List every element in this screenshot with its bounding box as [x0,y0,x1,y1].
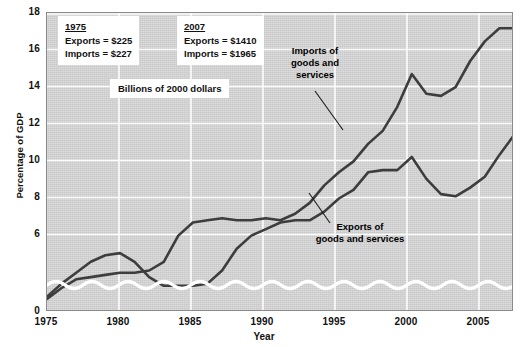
imports-label-line3: services [296,69,334,80]
x-tick-1975: 1975 [24,316,68,327]
callout-2007-heading: 2007 [184,20,257,33]
exports-series-label: Exports of goods and services [285,221,435,245]
exports-label-line2: goods and services [316,233,405,244]
units-note: Billions of 2000 dollars [110,79,229,98]
axis-break-wave [47,282,513,289]
x-tick-1990: 1990 [240,316,284,327]
callout-2007-imports: Imports = $1965 [184,47,257,60]
x-tick-1985: 1985 [168,316,212,327]
plot-area: 1975 Exports = $225 Imports = $227 2007 … [46,12,513,311]
imports-label-line2: goods and [291,57,339,68]
y-axis-title: Percentage of GDP [14,101,25,211]
exports-label-line1: Exports of [337,221,384,232]
callout-2007: 2007 Exports = $1410 Imports = $1965 [177,16,264,65]
imports-label-line1: Imports of [292,45,338,56]
x-tick-2005: 2005 [456,316,500,327]
y-tick-16: 16 [6,43,40,54]
x-axis-title: Year [0,331,528,342]
y-tick-0: 0 [6,305,40,316]
x-tick-2000: 2000 [384,316,428,327]
callout-1975-heading: 1975 [65,20,132,33]
y-tick-14: 14 [6,80,40,91]
callout-1975: 1975 Exports = $225 Imports = $227 [58,16,139,65]
x-tick-1995: 1995 [312,316,356,327]
y-tick-6: 6 [6,228,40,239]
callout-1975-imports: Imports = $227 [65,47,132,60]
y-tick-18: 18 [6,6,40,17]
units-note-text: Billions of 2000 dollars [118,82,221,95]
callout-2007-exports: Exports = $1410 [184,34,257,47]
x-tick-1980: 1980 [96,316,140,327]
chart-figure: 18 16 14 12 10 8 6 0 Percentage of GDP [0,0,528,347]
imports-series-label: Imports of goods and services [260,45,370,81]
callout-1975-exports: Exports = $225 [65,34,132,47]
